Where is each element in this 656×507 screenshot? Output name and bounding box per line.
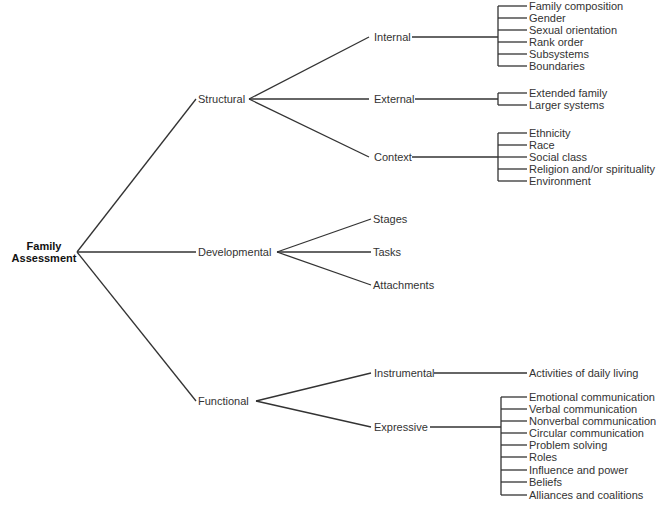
leaf-item: Gender [529,12,566,24]
leaf-item: Alliances and coalitions [529,489,643,501]
leaf-item: Nonverbal communication [529,415,656,427]
leaf-item: Rank order [529,36,583,48]
leaf-item: Influence and power [529,464,628,476]
leaf-item: Tasks [373,246,401,258]
leaf-item: Stages [373,213,407,225]
node-developmental: Developmental [198,246,271,258]
node-instrumental: Instrumental [374,367,435,379]
root-node-family-assessment: Family Assessment [4,240,88,264]
leaf-item: Subsystems [529,48,589,60]
leaf-item: Ethnicity [529,127,571,139]
leaf-item: Social class [529,151,587,163]
node-structural: Structural [198,93,245,105]
leaf-item: Race [529,139,555,151]
node-external: External [374,93,414,105]
root-label-line1: Family [4,240,84,252]
node-internal: Internal [374,31,411,43]
leaf-item: Family composition [529,0,623,12]
leaf-item: Activities of daily living [529,367,638,379]
leaf-item: Circular communication [529,427,644,439]
leaf-item: Larger systems [529,99,604,111]
leaf-item: Environment [529,175,591,187]
root-label-line2: Assessment [4,252,84,264]
leaf-item: Problem solving [529,439,607,451]
leaf-item: Attachments [373,279,434,291]
leaf-item: Verbal communication [529,403,637,415]
leaf-item: Emotional communication [529,391,655,403]
leaf-item: Beliefs [529,476,562,488]
leaf-item: Roles [529,451,557,463]
leaf-item: Boundaries [529,60,585,72]
node-functional: Functional [198,395,249,407]
leaf-item: Extended family [529,87,607,99]
leaf-item: Religion and/or spirituality [529,163,655,175]
node-expressive: Expressive [374,421,428,433]
leaf-item: Sexual orientation [529,24,617,36]
node-context: Context [374,151,412,163]
